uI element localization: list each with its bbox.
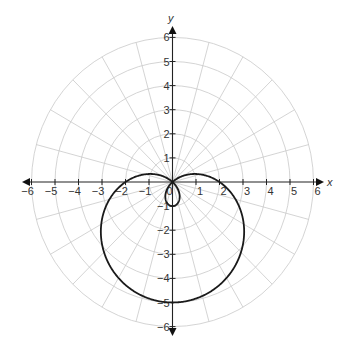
polar-chart: x y −6−5−4−3−2−10123456−6−5−4−3−2−112345… [0, 0, 345, 351]
y-tick-label: 3 [163, 104, 169, 116]
x-tick-label: −3 [92, 185, 105, 197]
x-tick-label: −6 [21, 185, 34, 197]
x-tick-label: 3 [244, 185, 250, 197]
y-tick-label: 1 [163, 152, 169, 164]
y-tick-label: 5 [163, 56, 169, 68]
x-tick-label: −4 [68, 185, 81, 197]
y-tick-label: 2 [163, 128, 169, 140]
x-tick-label: −5 [45, 185, 58, 197]
axes: x y [22, 12, 333, 336]
y-axis-down-arrow-icon [169, 328, 177, 336]
y-axis-up-arrow-icon [169, 26, 177, 34]
y-tick-label: 6 [163, 31, 169, 43]
x-axis-label: x [326, 176, 333, 188]
y-tick-label: −3 [157, 248, 170, 260]
x-tick-label: 4 [268, 185, 274, 197]
y-axis-label: y [167, 12, 175, 24]
x-tick-label: 1 [197, 185, 203, 197]
x-tick-label: −1 [139, 185, 152, 197]
x-tick-label: 6 [315, 185, 321, 197]
y-tick-label: −1 [157, 200, 170, 212]
y-tick-label: −2 [157, 224, 170, 236]
y-tick-label: 4 [163, 80, 169, 92]
x-tick-label: −2 [115, 185, 128, 197]
y-tick-label: −6 [157, 321, 170, 333]
x-tick-label: 5 [291, 185, 297, 197]
y-tick-label: −4 [157, 272, 170, 284]
